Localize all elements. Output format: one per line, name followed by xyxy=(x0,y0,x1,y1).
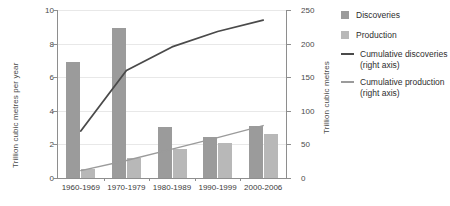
y-tick-label-left: 8 xyxy=(36,40,54,49)
square-swatch-icon xyxy=(341,11,349,19)
y-tick-right xyxy=(287,77,291,78)
y-tick-right xyxy=(287,111,291,112)
x-tick xyxy=(195,178,196,181)
x-axis-labels: 1960-19691970-19791980-19891990-19992000… xyxy=(58,181,286,197)
y-tick-right xyxy=(287,10,291,11)
legend-item: Cumulative production(right axis) xyxy=(341,77,449,98)
x-axis-label: 1960-1969 xyxy=(62,183,100,192)
line-cumulative-production xyxy=(81,126,263,171)
x-tick xyxy=(104,178,105,181)
x-axis-label: 1970-1979 xyxy=(107,183,145,192)
plot-area xyxy=(58,10,286,178)
x-tick xyxy=(240,178,241,181)
y-tick-left xyxy=(53,77,57,78)
y-tick-label-left: 4 xyxy=(36,107,54,116)
legend-sublabel: (right axis) xyxy=(360,88,445,99)
y-tick-left xyxy=(53,44,57,45)
x-tick xyxy=(149,178,150,181)
legend-sublabel: (right axis) xyxy=(360,60,447,71)
line-swatch-icon xyxy=(341,78,354,86)
y-tick-label-right: 200 xyxy=(301,40,314,49)
legend-label: Discoveries xyxy=(356,10,400,21)
x-axis-line xyxy=(57,178,287,179)
square-swatch-icon xyxy=(341,31,349,39)
y-tick-label-left: 2 xyxy=(36,140,54,149)
y-tick-right xyxy=(287,178,291,179)
y-tick-label-right: 0 xyxy=(301,174,305,183)
x-axis-label: 1980-1989 xyxy=(153,183,191,192)
y-tick-left xyxy=(53,111,57,112)
y-tick-right xyxy=(287,144,291,145)
chart-container: Trillion cubic metres per year Trillion … xyxy=(0,0,450,206)
y-tick-left xyxy=(53,144,57,145)
y-tick-right xyxy=(287,44,291,45)
legend-label: Cumulative discoveries(right axis) xyxy=(360,49,447,70)
y-tick-label-right: 50 xyxy=(301,140,310,149)
legend-item: Discoveries xyxy=(341,10,449,21)
legend-item: Cumulative discoveries(right axis) xyxy=(341,49,449,70)
legend-item: Production xyxy=(341,30,449,41)
y-tick-label-left: 6 xyxy=(36,73,54,82)
y-tick-label-left: 0 xyxy=(36,174,54,183)
y-tick-label-right: 150 xyxy=(301,73,314,82)
line-series-group xyxy=(58,10,286,178)
line-cumulative-discoveries xyxy=(81,20,263,131)
y-tick-left xyxy=(53,10,57,11)
chart-legend: DiscoveriesProductionCumulative discover… xyxy=(341,10,449,105)
y-axis-right-line xyxy=(286,10,287,178)
legend-label: Production xyxy=(356,30,397,41)
y-axis-left-title: Trillion cubic metres per year xyxy=(11,63,20,168)
legend-label: Cumulative production(right axis) xyxy=(360,77,445,98)
y-axis-right-ticks: 050100150200250 xyxy=(292,10,316,178)
x-axis-label: 2000-2006 xyxy=(244,183,282,192)
y-tick-left xyxy=(53,178,57,179)
y-tick-label-right: 250 xyxy=(301,6,314,15)
y-tick-label-left: 10 xyxy=(36,6,54,15)
y-axis-right-title: Trillion cubic metres xyxy=(322,61,331,134)
x-axis-label: 1990-1999 xyxy=(198,183,236,192)
y-axis-left-ticks: 0246810 xyxy=(36,10,54,178)
y-tick-label-right: 100 xyxy=(301,107,314,116)
line-swatch-icon xyxy=(341,50,354,58)
